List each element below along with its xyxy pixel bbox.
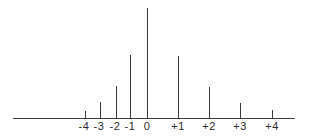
tick-label-plus-4: +4 [265, 120, 279, 132]
tick-label-minus-1: -1 [125, 120, 136, 132]
tick-label-minus-2: -2 [110, 120, 121, 132]
bar-minus-1 [130, 55, 131, 118]
x-axis-baseline [13, 118, 295, 119]
tick-label-zero: 0 [144, 120, 151, 132]
bar-plus-3 [240, 103, 241, 118]
tick-label-plus-3: +3 [233, 120, 247, 132]
bar-minus-4 [85, 111, 86, 118]
bar-zero [147, 8, 148, 118]
tick-label-plus-1: +1 [171, 120, 185, 132]
bar-plus-2 [209, 87, 210, 118]
tick-label-minus-4: -4 [79, 120, 90, 132]
tick-label-plus-2: +2 [202, 120, 216, 132]
bar-minus-2 [116, 86, 117, 118]
bar-plus-4 [272, 110, 273, 118]
stem-chart: -4 -3 -2 -1 0 +1 +2 +3 +4 [0, 0, 310, 138]
bar-minus-3 [100, 102, 101, 118]
bar-plus-1 [178, 56, 179, 118]
tick-label-minus-3: -3 [94, 120, 105, 132]
